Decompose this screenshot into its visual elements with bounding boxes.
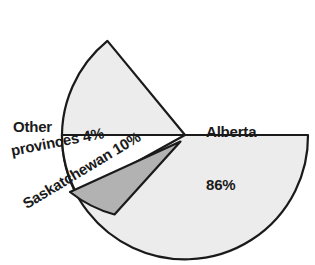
slice-label-alberta: Alberta 86% bbox=[206, 88, 256, 230]
slice-label-alberta-name: Alberta bbox=[206, 123, 256, 141]
slice-label-alberta-value: 86% bbox=[206, 176, 256, 194]
slice-label-other-provinces-line1: Other bbox=[13, 118, 52, 136]
pie-chart: Alberta 86% Other provinces 4% Saskatche… bbox=[0, 0, 315, 265]
